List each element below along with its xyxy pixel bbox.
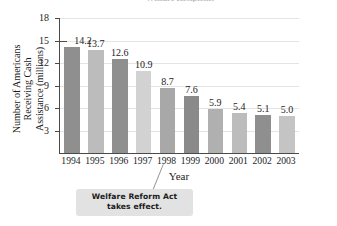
plot-area: 369121518 14.213.712.610.98.77.65.95.45.… [59,18,299,153]
x-tick-label-1997: 1997 [131,155,155,167]
bar-value-label-2000: 5.9 [209,97,222,108]
bar-value-label-1995: 13.7 [87,38,105,49]
bar-1998: 8.7 [160,88,176,153]
bar-value-label-2001: 5.4 [233,101,246,112]
chart-title-clipped: Welfare Recipients [105,0,255,2]
bar-value-label-1999: 7.6 [185,84,198,95]
x-tick-label-2000: 2000 [202,155,226,167]
y-tick-label-6: 6 [27,103,49,113]
bar-value-label-1998: 8.7 [161,76,174,87]
y-tick-label-9: 9 [27,81,49,91]
y-tick-12: 12 [55,63,59,64]
callout-line-1: Welfare Reform Act [78,192,191,202]
bar-2003: 5.0 [279,116,295,154]
x-tick-label-1999: 1999 [179,155,203,167]
x-tick-label-1995: 1995 [83,155,107,167]
bar-1994: 14.2 [64,47,80,154]
bar-1996: 12.6 [112,59,128,154]
welfare-recipients-bar-chart: Welfare Recipients Number of Americans R… [0,0,337,226]
x-tick-label-1998: 1998 [155,155,179,167]
y-tick-label-18: 18 [27,13,49,23]
y-tick-6: 6 [55,108,59,109]
x-axis-ticks: 1994199519961997199819992000200120022003 [59,155,299,168]
callout-welfare-reform-act: Welfare Reform Act takes effect. [76,189,193,216]
value-leader-line [60,41,67,42]
y-tick-label-12: 12 [27,58,49,68]
x-tick-label-1996: 1996 [107,155,131,167]
x-tick-label-2002: 2002 [250,155,274,167]
bar-2000: 5.9 [208,109,224,153]
y-tick-15: 15 [55,41,59,42]
bar-2002: 5.1 [255,115,271,153]
x-axis-title: Year [59,170,299,183]
y-tick-label-3: 3 [27,126,49,136]
x-tick-label-2001: 2001 [226,155,250,167]
y-tick-label-15: 15 [27,36,49,46]
x-axis-line [59,153,299,154]
bar-value-label-2002: 5.1 [257,103,270,114]
bar-1995: 13.7 [88,50,104,153]
callout-line-2: takes effect. [78,202,191,212]
y-tick-18: 18 [55,18,59,19]
y-tick-9: 9 [55,86,59,87]
bar-1997: 10.9 [136,71,152,153]
bar-series: 14.213.712.610.98.77.65.95.45.15.0 [60,18,299,153]
bar-1999: 7.6 [184,96,200,153]
bar-value-label-2003: 5.0 [281,104,294,115]
bar-value-label-1996: 12.6 [111,47,129,58]
bar-2001: 5.4 [232,113,248,154]
y-axis-title-line-1: Number of Americans [11,14,22,164]
x-tick-label-2003: 2003 [274,155,298,167]
bar-value-label-1997: 10.9 [135,59,153,70]
x-tick-label-1994: 1994 [59,155,83,167]
y-tick-3: 3 [55,131,59,132]
